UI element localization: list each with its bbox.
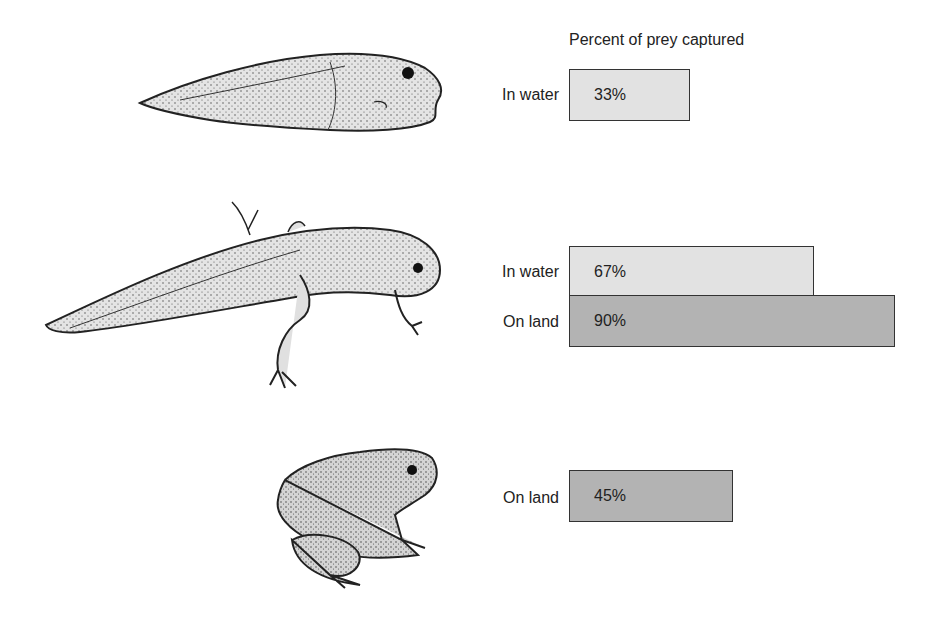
tadpole-illustration bbox=[140, 54, 441, 131]
bar-value: 45% bbox=[594, 487, 626, 505]
bar-label-tadpole-water: In water bbox=[469, 86, 559, 104]
bar-tadpole-in-water: 33% bbox=[569, 69, 690, 121]
bar-value: 67% bbox=[594, 263, 626, 281]
bar-froglet-in-water: 67% bbox=[569, 246, 814, 298]
bar-value: 90% bbox=[594, 312, 626, 330]
adult-frog-illustration bbox=[278, 450, 437, 588]
bar-label-froglet-land: On land bbox=[469, 313, 559, 331]
bar-label-adult-land: On land bbox=[469, 489, 559, 507]
bar-label-froglet-water: In water bbox=[469, 263, 559, 281]
froglet-illustration bbox=[46, 202, 440, 388]
bar-value: 33% bbox=[594, 86, 626, 104]
bar-adult-on-land: 45% bbox=[569, 470, 733, 522]
bar-froglet-on-land: 90% bbox=[569, 295, 895, 347]
chart-title: Percent of prey captured bbox=[569, 31, 744, 49]
